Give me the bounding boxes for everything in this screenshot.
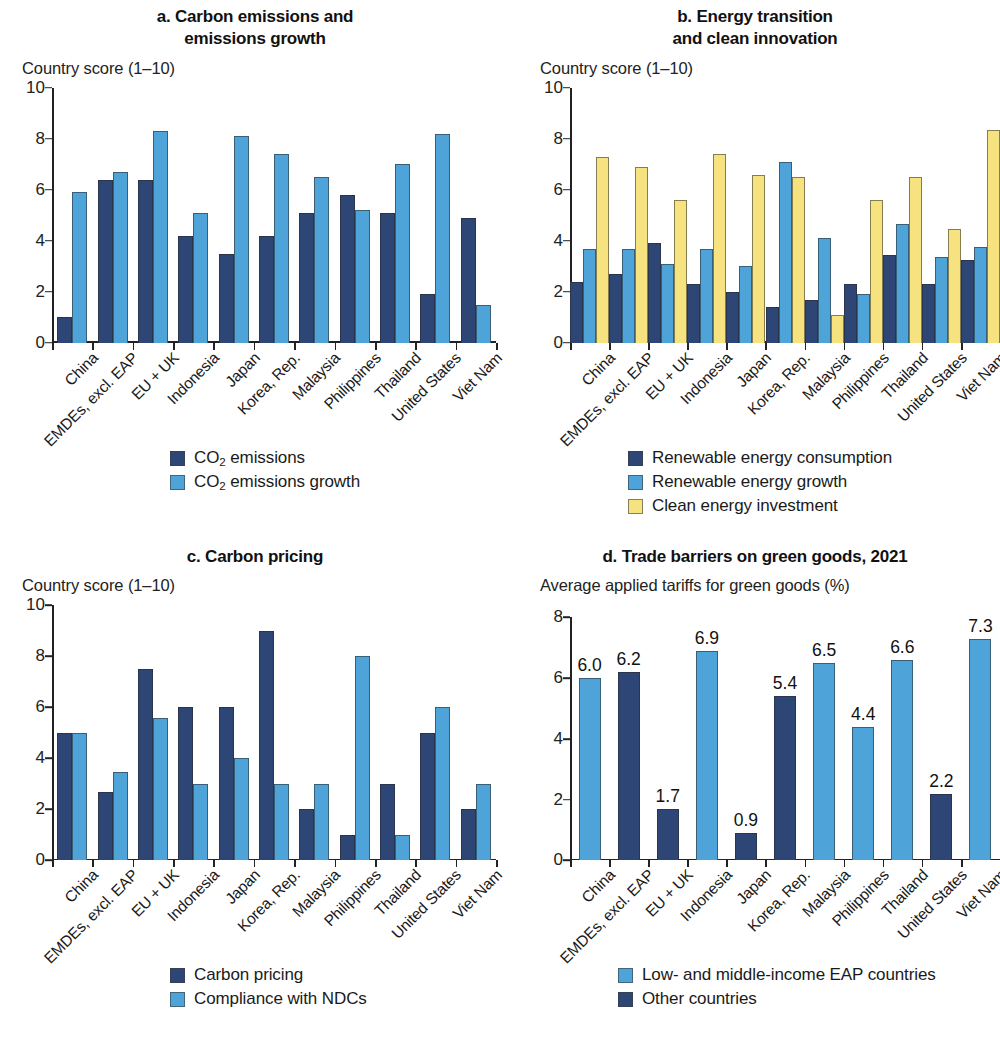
- bar[interactable]: [622, 249, 635, 343]
- bar[interactable]: [234, 136, 249, 343]
- bar[interactable]: [896, 224, 909, 343]
- x-tick-mark: [648, 860, 650, 867]
- bar[interactable]: [178, 707, 193, 860]
- bar[interactable]: [461, 218, 476, 343]
- bar[interactable]: [234, 758, 249, 860]
- bar[interactable]: [395, 835, 410, 861]
- bar[interactable]: [138, 669, 153, 860]
- bar[interactable]: [274, 784, 289, 861]
- bar[interactable]: [461, 809, 476, 860]
- bar[interactable]: [726, 292, 739, 343]
- bar[interactable]: [909, 177, 922, 343]
- bar[interactable]: [380, 784, 395, 861]
- bar[interactable]: [178, 236, 193, 343]
- bar[interactable]: [259, 236, 274, 343]
- bar[interactable]: [948, 229, 961, 342]
- bar[interactable]: 6.5: [813, 663, 835, 860]
- bar[interactable]: [739, 266, 752, 343]
- bar[interactable]: [355, 210, 370, 343]
- bar[interactable]: [113, 172, 128, 343]
- bar[interactable]: 5.4: [774, 696, 796, 860]
- bar[interactable]: 6.2: [618, 672, 640, 860]
- bar[interactable]: [792, 177, 805, 343]
- bar[interactable]: [299, 809, 314, 860]
- bar[interactable]: [974, 247, 987, 343]
- bar[interactable]: [857, 294, 870, 342]
- bar[interactable]: [420, 294, 435, 342]
- legend-label-carbon-pricing: Carbon pricing: [194, 965, 303, 985]
- bar[interactable]: [883, 255, 896, 343]
- bar[interactable]: [844, 284, 857, 343]
- bar[interactable]: [138, 180, 153, 343]
- legend-swatch-carbon-pricing: [170, 968, 185, 983]
- bar[interactable]: [818, 238, 831, 343]
- panel-b-axis-label: Country score (1–10): [510, 59, 1000, 78]
- bar[interactable]: [98, 792, 113, 861]
- y-tick-mark: [45, 138, 52, 140]
- bar[interactable]: [635, 167, 648, 343]
- bar[interactable]: [340, 835, 355, 861]
- bar[interactable]: [961, 260, 974, 343]
- bar[interactable]: [583, 249, 596, 343]
- bar[interactable]: [299, 213, 314, 343]
- bar[interactable]: [674, 200, 687, 343]
- bar[interactable]: 6.6: [891, 660, 913, 860]
- bar[interactable]: [153, 718, 168, 861]
- bar[interactable]: [713, 154, 726, 343]
- bar[interactable]: [831, 315, 844, 343]
- bar[interactable]: [72, 733, 87, 861]
- bar[interactable]: [193, 784, 208, 861]
- x-tick-mark: [456, 860, 458, 867]
- bar[interactable]: [57, 317, 72, 343]
- bar[interactable]: [609, 274, 622, 343]
- bar[interactable]: [98, 180, 113, 343]
- bar[interactable]: [314, 784, 329, 861]
- bar[interactable]: [420, 733, 435, 861]
- panel-c-carbon-pricing: c. Carbon pricing Country score (1–10) C…: [0, 540, 510, 1051]
- bar[interactable]: [355, 656, 370, 860]
- bar[interactable]: [700, 249, 713, 343]
- x-tick-mark: [415, 860, 417, 867]
- bar[interactable]: [661, 264, 674, 343]
- bar[interactable]: 1.7: [657, 809, 679, 861]
- bar[interactable]: [779, 162, 792, 343]
- bar[interactable]: [57, 733, 72, 861]
- bar[interactable]: [922, 284, 935, 343]
- bar[interactable]: [870, 200, 883, 343]
- bar[interactable]: [752, 175, 765, 343]
- bar[interactable]: [380, 213, 395, 343]
- bar[interactable]: [219, 707, 234, 860]
- bar[interactable]: [648, 243, 661, 342]
- bar[interactable]: [476, 305, 491, 343]
- bar[interactable]: [596, 157, 609, 343]
- bar[interactable]: [340, 195, 355, 343]
- bar[interactable]: [259, 631, 274, 861]
- bar[interactable]: [805, 300, 818, 343]
- bar-group: [648, 88, 687, 343]
- bar[interactable]: [435, 707, 450, 860]
- bar[interactable]: [935, 257, 948, 342]
- bar[interactable]: [219, 254, 234, 343]
- bar-group: [254, 605, 294, 860]
- bar[interactable]: [113, 772, 128, 860]
- bar[interactable]: [766, 307, 779, 343]
- bar[interactable]: [153, 131, 168, 343]
- bar[interactable]: [435, 134, 450, 343]
- bar[interactable]: [395, 164, 410, 343]
- bar-value-label: 7.3: [968, 616, 992, 637]
- bar[interactable]: 2.2: [930, 794, 952, 861]
- bar[interactable]: [476, 784, 491, 861]
- bar[interactable]: 6.9: [696, 651, 718, 861]
- bar[interactable]: [193, 213, 208, 343]
- bar[interactable]: [570, 282, 583, 343]
- bar[interactable]: [687, 284, 700, 343]
- bar[interactable]: 0.9: [735, 833, 757, 860]
- bar[interactable]: [72, 192, 87, 342]
- bar[interactable]: 7.3: [969, 639, 991, 861]
- bar[interactable]: 6.0: [579, 678, 601, 860]
- bar[interactable]: [274, 154, 289, 343]
- bar[interactable]: [987, 130, 1000, 343]
- bar[interactable]: [314, 177, 329, 343]
- bar-group: [92, 605, 132, 860]
- bar[interactable]: 4.4: [852, 727, 874, 861]
